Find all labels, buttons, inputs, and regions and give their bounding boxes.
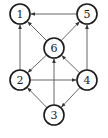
node-1: 1 [10,4,30,24]
edge-6-to-2 [28,55,47,73]
node-2: 2 [10,70,30,90]
node-label: 6 [51,42,58,55]
node-5: 5 [77,4,97,24]
node-label: 4 [84,74,91,87]
node-4: 4 [77,70,97,90]
node-label: 1 [17,8,24,21]
edge-4-to-6 [62,55,80,73]
node-layer: 156243 [10,4,97,125]
node-6: 6 [44,38,64,58]
directed-graph: 156243 [0,0,108,138]
edge-3-to-2 [27,88,47,108]
edge-4-to-3 [61,87,80,107]
node-label: 3 [51,109,58,122]
node-label: 2 [17,74,24,87]
edge-layer [20,14,87,108]
node-3: 3 [44,105,64,125]
edge-6-to-1 [27,21,47,41]
edge-6-to-5 [61,22,80,41]
node-label: 5 [84,8,91,21]
